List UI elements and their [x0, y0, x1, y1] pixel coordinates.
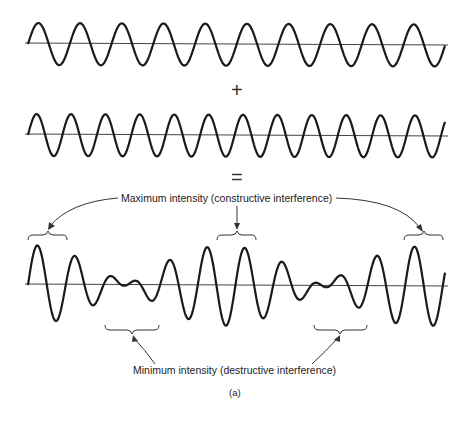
- max-intensity-label: Maximum intensity (constructive interfer…: [121, 192, 332, 204]
- min-intensity-label: Minimum intensity (destructive interfere…: [133, 364, 336, 376]
- min-bracket-right: [314, 325, 367, 334]
- max-bracket-left: [28, 231, 67, 240]
- min-arrows: [134, 338, 338, 364]
- equals-operator: =: [231, 167, 243, 187]
- arrowheads-max: [48, 222, 423, 232]
- wave-1: [28, 23, 445, 66]
- min-bracket-left: [105, 325, 159, 334]
- wave2-axis: [25, 134, 448, 136]
- figure-caption: (a): [229, 387, 241, 398]
- interference-diagram: [0, 0, 470, 423]
- max-bracket-right: [404, 231, 443, 240]
- max-bracket-center: [217, 231, 256, 240]
- plus-operator: +: [231, 80, 243, 100]
- arrowheads-min: [132, 335, 340, 342]
